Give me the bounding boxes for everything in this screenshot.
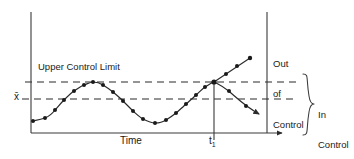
data-point	[141, 117, 145, 121]
data-point	[62, 98, 66, 102]
data-point	[153, 121, 157, 125]
data-point-in-control	[227, 89, 231, 93]
x-axis-label: Time	[120, 136, 142, 147]
in-control-brace	[303, 74, 314, 135]
data-point	[101, 83, 105, 87]
data-point-in-control	[244, 104, 248, 108]
data-point	[164, 118, 168, 122]
in-control-label: In Control	[318, 89, 349, 159]
data-point	[121, 99, 125, 103]
control-chart-figure: Upper Control Limit x̄ Time t1 Out of Co…	[0, 0, 354, 159]
data-point	[43, 116, 47, 120]
upper-control-limit-label: Upper Control Limit	[38, 62, 120, 72]
in-control-line-2: Control	[318, 140, 349, 150]
in-control-branch	[214, 82, 259, 114]
data-point	[82, 83, 86, 87]
data-point-out-of-control	[248, 56, 252, 60]
t1-label: t1	[209, 136, 216, 149]
data-point-t1	[211, 79, 216, 84]
data-point	[131, 109, 135, 113]
data-point	[111, 90, 115, 94]
data-point	[31, 119, 35, 123]
in-control-line-1: In	[318, 110, 349, 120]
out-of-control-label: Out of Control	[273, 38, 304, 151]
data-point	[203, 85, 207, 89]
data-point	[91, 80, 95, 84]
data-point	[53, 108, 57, 112]
out-of-control-line-1: Out	[273, 59, 304, 69]
center-line-label: x̄	[14, 92, 19, 103]
data-point-out-of-control	[235, 64, 239, 68]
data-point-out-of-control	[224, 72, 228, 76]
out-of-control-line-3: Control	[273, 120, 304, 130]
t1-label-subscript: 1	[212, 141, 216, 148]
data-point	[194, 93, 198, 97]
out-of-control-branch	[214, 58, 250, 82]
data-point	[174, 111, 178, 115]
data-point	[184, 102, 188, 106]
data-point	[72, 89, 76, 93]
out-of-control-line-2: of	[273, 89, 304, 99]
